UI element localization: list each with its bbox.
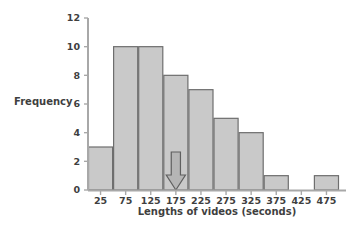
x-axis-ticks: 2575125175225275325375425475 [94,191,336,206]
histogram-bar [139,47,163,190]
y-tick-label: 8 [73,70,80,81]
y-tick-label: 12 [67,12,80,23]
x-tick-label: 125 [141,195,161,206]
x-axis-title: Lengths of videos (seconds) [138,206,297,217]
x-tick-label: 275 [216,195,236,206]
bar-series [89,47,339,190]
histogram-bar [89,147,113,190]
y-tick-label: 4 [73,127,80,138]
histogram-bar [189,90,213,190]
y-tick-label: 0 [73,184,80,195]
x-tick-label: 175 [166,195,186,206]
histogram-bar [239,133,263,190]
x-tick-label: 225 [191,195,211,206]
x-tick-label: 25 [94,195,107,206]
histogram-chart: 024681012 2575125175225275325375425475 F… [0,0,355,231]
histogram-bar [264,176,288,190]
histogram-bar [114,47,138,190]
y-tick-label: 2 [73,156,80,167]
chart-canvas: 024681012 2575125175225275325375425475 F… [0,0,355,231]
histogram-bar [314,176,338,190]
x-tick-label: 375 [266,195,286,206]
y-axis-title: Frequency [14,96,73,107]
histogram-bar [214,118,238,190]
x-tick-label: 425 [291,195,311,206]
x-tick-label: 325 [241,195,261,206]
y-tick-label: 6 [73,98,80,109]
x-tick-label: 475 [317,195,337,206]
x-tick-label: 75 [119,195,132,206]
y-tick-label: 10 [67,41,81,52]
